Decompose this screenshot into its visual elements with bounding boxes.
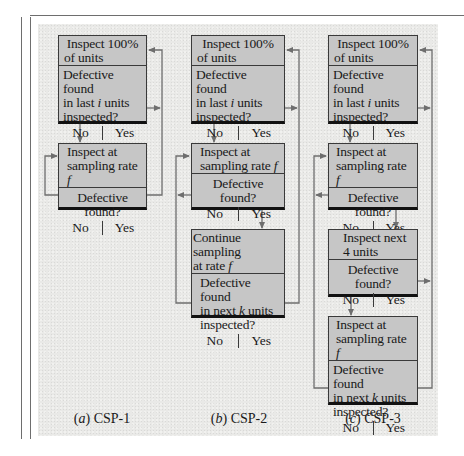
csp3-sampling-k-box: Inspect at sampling rate f Defective fou…	[328, 316, 418, 405]
answer-yes: Yes	[103, 219, 146, 235]
box-heading: Inspect 100% of units	[59, 36, 146, 66]
csp1-inspect-100-box: Inspect 100% of units Defective found in…	[58, 35, 147, 124]
box-heading: Inspect at sampling rate f	[59, 144, 146, 188]
csp2-sampling-box: Inspect at sampling rate f Defective fou…	[191, 143, 285, 210]
csp3-inspect-next-4-box: Inspect next 4 units Defective found? No…	[328, 229, 418, 297]
box-question: Defective found?	[329, 188, 417, 219]
caption-csp3: (c) CSP-3	[313, 411, 433, 427]
csp2-inspect-100-box: Inspect 100% of units Defective found in…	[191, 35, 285, 124]
box-answers: No Yes	[192, 205, 284, 221]
box-heading: Inspect next 4 units	[329, 230, 417, 260]
answer-yes: Yes	[239, 332, 285, 348]
box-answers: No Yes	[329, 291, 417, 307]
box-answers: No Yes	[192, 332, 284, 348]
box-question: Defective found?	[59, 188, 146, 219]
csp3-sampling-box: Inspect at sampling rate f Defective fou…	[328, 143, 418, 210]
answer-no: No	[192, 207, 239, 221]
frame-left-line-inner	[30, 17, 31, 439]
box-answers: No Yes	[192, 124, 284, 140]
caption-csp1: (a) CSP-1	[42, 411, 162, 427]
box-answers: No Yes	[59, 219, 146, 235]
box-answers: No Yes	[59, 124, 146, 140]
caption-csp2: (b) CSP-2	[179, 411, 299, 427]
answer-yes: Yes	[239, 124, 285, 140]
box-heading: Inspect 100% of units	[329, 36, 417, 66]
csp3-inspect-100-box: Inspect 100% of units Defective found in…	[328, 35, 418, 124]
answer-no: No	[329, 126, 374, 140]
box-heading: Inspect at sampling rate f	[192, 144, 284, 174]
csp1-sampling-box: Inspect at sampling rate f Defective fou…	[58, 143, 147, 210]
answer-no: No	[59, 221, 103, 235]
csp2-continue-sampling-box: Continue sampling at rate f Defective fo…	[191, 229, 285, 318]
box-question: Defective found?	[192, 174, 284, 205]
box-question: Defective found?	[329, 260, 417, 291]
answer-no: No	[329, 293, 374, 307]
answer-yes: Yes	[103, 124, 146, 140]
frame-top-line	[30, 15, 464, 16]
box-question: Defective found in last i units inspecte…	[329, 66, 417, 124]
answer-no: No	[192, 126, 239, 140]
box-question: Defective found in last i units inspecte…	[59, 66, 146, 124]
box-heading: Inspect at sampling rate f	[329, 144, 417, 188]
box-heading: Inspect 100% of units	[192, 36, 284, 66]
answer-yes: Yes	[374, 124, 418, 140]
box-question: Defective found in next k units inspecte…	[192, 274, 284, 332]
answer-yes: Yes	[374, 291, 418, 307]
answer-no: No	[59, 126, 103, 140]
answer-yes: Yes	[239, 205, 285, 221]
box-answers: No Yes	[329, 124, 417, 140]
box-heading: Inspect at sampling rate f	[329, 317, 417, 361]
box-question: Defective found in last i units inspecte…	[192, 66, 284, 124]
answer-no: No	[192, 334, 239, 348]
frame-left-line-outer	[21, 17, 22, 439]
box-heading: Continue sampling at rate f	[192, 230, 284, 274]
